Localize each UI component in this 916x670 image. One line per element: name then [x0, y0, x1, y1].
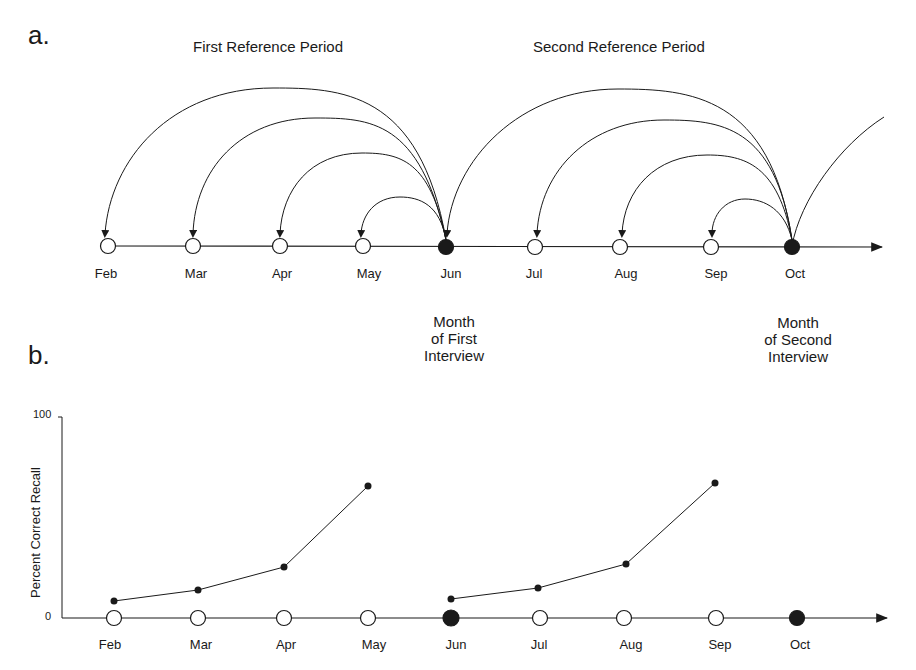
month-label-b-may: May	[362, 637, 387, 652]
first-interview-note: Month of First Interview	[424, 313, 484, 364]
month-label-a-mar: Mar	[185, 266, 207, 281]
panel-b-label: b.	[28, 340, 50, 371]
month-label-b-feb: Feb	[99, 637, 121, 652]
month-label-a-oct: Oct	[785, 266, 805, 281]
month-label-b-mar: Mar	[190, 637, 212, 652]
recall-arcs-second-period	[447, 89, 884, 246]
month-label-a-apr: Apr	[272, 266, 292, 281]
month-label-a-aug: Aug	[614, 266, 637, 281]
month-label-a-feb: Feb	[95, 266, 117, 281]
month-label-a-sep: Sep	[704, 266, 727, 281]
y-axis-label: Percent Correct Recall	[28, 467, 43, 598]
month-label-a-jul: Jul	[526, 266, 543, 281]
second-interview-note: Month of Second Interview	[764, 314, 832, 365]
recall-arcs-first-period	[105, 88, 446, 240]
month-label-b-oct: Oct	[790, 637, 810, 652]
timeline-axis-a	[108, 246, 882, 247]
month-label-b-jun: Jun	[446, 637, 467, 652]
month-label-a-may: May	[357, 266, 382, 281]
month-label-a-jun: Jun	[441, 266, 462, 281]
recall-series-second	[448, 480, 719, 603]
y-tick-label-0: 0	[45, 610, 51, 622]
month-label-b-sep: Sep	[708, 637, 731, 652]
month-label-b-aug: Aug	[619, 637, 642, 652]
recall-series-first	[111, 483, 372, 605]
month-label-b-jul: Jul	[531, 637, 548, 652]
y-tick-label-100: 100	[33, 408, 51, 420]
month-label-b-apr: Apr	[276, 637, 296, 652]
